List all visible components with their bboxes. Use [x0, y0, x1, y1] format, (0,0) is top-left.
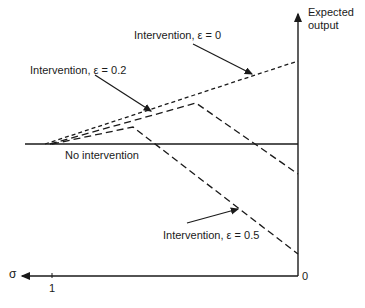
series-eps-0.2	[50, 103, 298, 174]
arrow-eps-0.5	[187, 209, 238, 223]
y-axis-label-line1: Expected	[308, 6, 354, 19]
label-eps-0.2: Intervention, ε = 0.2	[30, 64, 126, 76]
label-eps-0: Intervention, ε = 0	[134, 29, 221, 41]
label-no-intervention: No intervention	[65, 149, 139, 161]
label-eps-0.5: Intervention, ε = 0.5	[163, 229, 259, 241]
chart-canvas	[0, 0, 365, 308]
arrow-eps-0.2	[95, 75, 151, 111]
x-axis-label: σ	[9, 268, 16, 280]
origin-label: 0	[302, 270, 308, 282]
y-axis-label: Expected output	[308, 6, 354, 32]
y-axis-label-line2: output	[308, 19, 354, 32]
arrow-eps-0	[193, 44, 252, 74]
x-tick-label-1: 1	[49, 282, 55, 294]
